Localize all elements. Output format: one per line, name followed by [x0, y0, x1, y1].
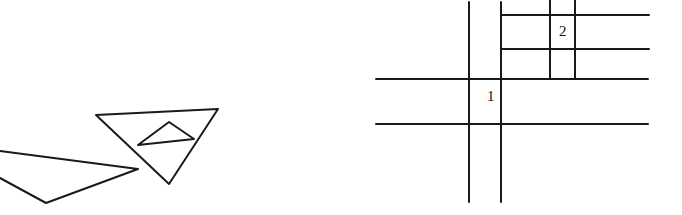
cell-label-1: 1: [487, 89, 495, 104]
left-triangle: [0, 151, 138, 203]
cell-label-2: 2: [559, 24, 567, 39]
grid-panel: [376, 0, 649, 202]
large-triangle: [96, 109, 218, 184]
inner-triangle: [138, 122, 194, 145]
triangles-panel: [0, 109, 218, 203]
diagram-canvas: [0, 0, 682, 215]
